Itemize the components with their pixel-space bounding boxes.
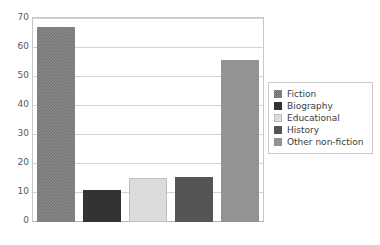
- bar-chart: 706050403020100 FictionBiographyEducatio…: [0, 0, 380, 245]
- legend-swatch-icon: [274, 114, 282, 122]
- bar-biography: [83, 190, 121, 222]
- legend-swatch-icon: [274, 126, 282, 134]
- y-tick-label-30: 30: [3, 129, 29, 138]
- legend-item[interactable]: Biography: [274, 100, 367, 112]
- bar-history: [175, 177, 213, 222]
- bar-other-non-fiction: [221, 60, 259, 222]
- bar-educational: [129, 178, 167, 222]
- legend-item-label: Educational: [287, 113, 340, 123]
- legend-item-label: Other non-fiction: [287, 137, 363, 147]
- y-tick-label-50: 50: [3, 71, 29, 80]
- legend-item[interactable]: History: [274, 124, 367, 136]
- legend-items: FictionBiographyEducationalHistoryOther …: [274, 88, 367, 148]
- y-tick-label-0: 0: [3, 216, 29, 225]
- legend-item[interactable]: Fiction: [274, 88, 367, 100]
- legend-swatch-icon: [274, 90, 282, 98]
- y-tick-label-20: 20: [3, 158, 29, 167]
- legend-item-label: History: [287, 125, 319, 135]
- bar-fiction: [37, 27, 75, 222]
- legend-item[interactable]: Educational: [274, 112, 367, 124]
- legend-item-label: Fiction: [287, 89, 316, 99]
- y-tick-label-60: 60: [3, 42, 29, 51]
- legend-item-label: Biography: [287, 101, 333, 111]
- y-axis-tick-labels: 706050403020100: [0, 17, 29, 222]
- y-tick-label-70: 70: [3, 13, 29, 22]
- chart-legend: FictionBiographyEducationalHistoryOther …: [268, 82, 373, 154]
- legend-swatch-icon: [274, 102, 282, 110]
- bars-group: [33, 18, 263, 222]
- legend-swatch-icon: [274, 138, 282, 146]
- y-tick-label-10: 10: [3, 187, 29, 196]
- y-tick-label-40: 40: [3, 100, 29, 109]
- legend-item[interactable]: Other non-fiction: [274, 136, 367, 148]
